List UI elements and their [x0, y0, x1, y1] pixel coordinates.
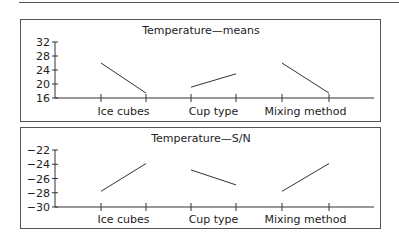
- series-line-cup-type: [191, 170, 236, 185]
- series-line-mixing-method: [282, 164, 329, 192]
- sn-chart: Temperature—S/N−30−28−26−24−22Ice cubesC…: [21, 128, 382, 230]
- chart-title: Temperature—S/N: [150, 132, 251, 145]
- y-tick-label: 32: [36, 36, 50, 49]
- x-category-label: Mixing method: [264, 213, 346, 226]
- x-category-label: Cup type: [189, 213, 239, 226]
- y-tick-label: −28: [27, 187, 50, 200]
- series-line-mixing-method: [282, 63, 329, 93]
- x-category-label: Cup type: [189, 105, 239, 118]
- y-tick-label: −24: [27, 158, 50, 171]
- series-line-ice-cubes: [101, 63, 146, 93]
- means-chart-panel: Temperature—means1620242832Ice cubesCup …: [20, 19, 381, 122]
- means-chart: Temperature—means1620242832Ice cubesCup …: [21, 20, 382, 123]
- y-tick-label: −22: [27, 144, 50, 157]
- sn-chart-panel: Temperature—S/N−30−28−26−24−22Ice cubesC…: [20, 127, 381, 229]
- top-rule: [19, 2, 399, 3]
- chart-title: Temperature—means: [141, 24, 260, 37]
- x-category-label: Ice cubes: [97, 105, 149, 118]
- series-line-ice-cubes: [101, 164, 146, 192]
- y-tick-label: 24: [36, 64, 50, 77]
- y-tick-label: −26: [27, 173, 50, 186]
- y-tick-label: 20: [36, 78, 50, 91]
- x-category-label: Ice cubes: [97, 213, 149, 226]
- x-category-label: Mixing method: [264, 105, 346, 118]
- y-tick-label: −30: [27, 201, 50, 214]
- y-tick-label: 16: [36, 92, 50, 105]
- y-tick-label: 28: [36, 50, 50, 63]
- series-line-cup-type: [191, 74, 236, 87]
